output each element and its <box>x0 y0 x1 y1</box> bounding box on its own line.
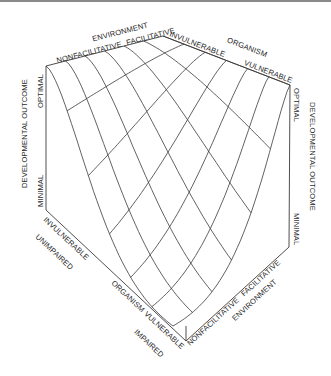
label-group-left-outcome: OPTIMAL MINIMAL DEVELOPMENTAL OUTCOME <box>20 74 45 207</box>
label-minimal-right: MINIMAL <box>292 213 301 245</box>
label-nonfacilitative-bottom: NONFACILITATIVE <box>185 296 241 348</box>
label-invulnerable-bottom: INVULNERABLE <box>42 215 91 262</box>
label-invulnerable-top: INVULNERABLE <box>168 29 226 59</box>
grid-line-organism <box>173 85 290 326</box>
grid-line-organism <box>152 77 269 307</box>
grid-line-environment <box>46 66 173 326</box>
grid-line-environment <box>124 46 251 213</box>
label-group-top-org: INVULNERABLE VULNERABLE ORGANISM <box>168 15 299 85</box>
risk-surface-diagram: NONFACILITATIVE FACILITATIVE ENVIRONMENT… <box>0 0 331 376</box>
label-vulnerable-top: VULNERABLE <box>243 58 294 85</box>
label-group-top-env: NONFACILITATIVE FACILITATIVE ENVIRONMENT <box>53 14 176 65</box>
label-optimal-left: OPTIMAL <box>36 74 45 108</box>
bottom-left-edge <box>46 210 186 341</box>
right-vertical-edge <box>289 85 290 247</box>
label-minimal-left: MINIMAL <box>36 175 45 207</box>
label-developmental-outcome-right: DEVELOPMENTAL OUTCOME <box>308 102 317 211</box>
label-optimal-right: OPTIMAL <box>292 88 301 122</box>
label-nonfacilitative-top: NONFACILITATIVE <box>56 40 123 65</box>
grid-line-organism <box>131 69 248 278</box>
label-organism-top: ORGANISM <box>226 36 269 60</box>
label-organism-bottom: ORGANISM <box>110 279 147 314</box>
grid-line-organism <box>110 61 227 234</box>
label-group-right-outcome: OPTIMAL MINIMAL DEVELOPMENTAL OUTCOME <box>292 88 317 245</box>
grid-line-environment <box>144 41 271 149</box>
label-developmental-outcome-left: DEVELOPMENTAL OUTCOME <box>20 79 29 188</box>
label-group-bottom-env: NONFACILITATIVE FACILITATIVE ENVIRONMENT <box>185 258 290 356</box>
